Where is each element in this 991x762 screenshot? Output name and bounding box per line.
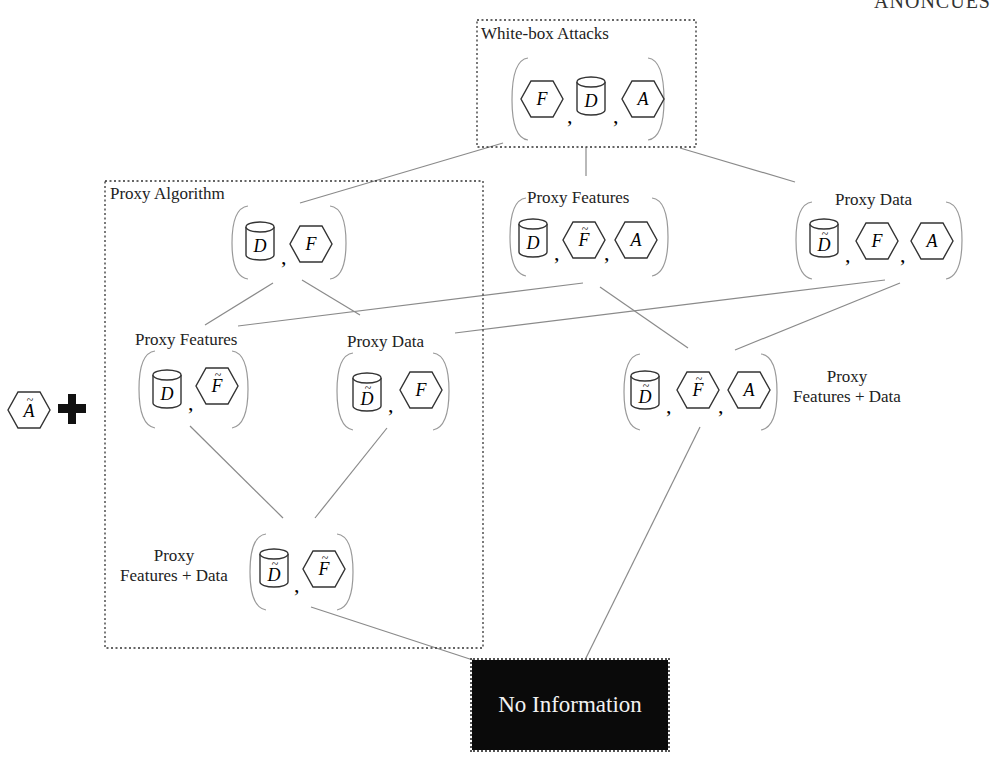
svg-text:~: ~ bbox=[215, 368, 222, 382]
cylinder-icon: D bbox=[246, 222, 274, 260]
node-pa-root: D , F bbox=[232, 206, 346, 279]
svg-text:A: A bbox=[926, 231, 939, 251]
node-proxy-features-data: D~ , F~ , A bbox=[624, 354, 777, 430]
svg-text:F: F bbox=[305, 234, 318, 254]
edge-pa-root-to-pa-data bbox=[302, 280, 360, 315]
cylinder-tilde-icon: D~ bbox=[631, 371, 659, 409]
svg-text:D: D bbox=[584, 91, 598, 111]
svg-text:F: F bbox=[536, 89, 549, 109]
svg-text:,: , bbox=[900, 242, 906, 267]
hexagon-icon: F bbox=[400, 372, 442, 408]
node-pa-proxy-features: D , F~ bbox=[139, 351, 248, 428]
hexagon-tilde-icon: A~ bbox=[8, 392, 50, 428]
node-pa-proxy-features-data: D~ , F~ bbox=[250, 534, 353, 610]
svg-text:,: , bbox=[188, 390, 194, 415]
pa-proxy-features-label: Proxy Features bbox=[135, 330, 237, 350]
legend-prefix: A~ bbox=[8, 392, 86, 428]
node-whitebox: F , D , A bbox=[512, 58, 664, 140]
cylinder-icon: D bbox=[153, 370, 181, 408]
node-proxy-features: D , F~ , A bbox=[510, 198, 668, 276]
hexagon-icon: A bbox=[911, 223, 953, 259]
svg-text:D: D bbox=[160, 384, 174, 404]
svg-text:~: ~ bbox=[365, 381, 372, 395]
cylinder-tilde-icon: D~ bbox=[260, 549, 288, 587]
svg-text:~: ~ bbox=[696, 372, 703, 386]
plus-icon bbox=[58, 394, 86, 424]
cylinder-tilde-icon: D~ bbox=[353, 373, 381, 411]
svg-text:~: ~ bbox=[272, 557, 279, 571]
edge-whitebox-to-proxy-data bbox=[680, 148, 795, 182]
hexagon-icon: A bbox=[622, 81, 664, 117]
cylinder-icon: D bbox=[519, 219, 547, 257]
svg-text:,: , bbox=[294, 572, 300, 597]
svg-text:A: A bbox=[637, 89, 650, 109]
hexagon-icon: F bbox=[290, 226, 332, 262]
edge-whitebox-to-pa-root bbox=[300, 143, 503, 203]
edge-data-to-pa-data bbox=[455, 280, 885, 333]
svg-text:F: F bbox=[871, 231, 884, 251]
edge-pa-features-to-pa-featdata bbox=[190, 426, 283, 518]
cylinder-tilde-icon: D~ bbox=[810, 219, 838, 257]
cylinder-icon: D bbox=[577, 77, 605, 115]
svg-text:~: ~ bbox=[643, 379, 650, 393]
comma: , bbox=[567, 103, 573, 128]
svg-text:,: , bbox=[845, 242, 851, 267]
whitebox-group-title: White-box Attacks bbox=[481, 24, 609, 44]
svg-text:~: ~ bbox=[822, 227, 829, 241]
svg-text:A: A bbox=[743, 380, 756, 400]
hexagon-tilde-icon: F~ bbox=[563, 222, 605, 258]
hexagon-icon: A bbox=[728, 372, 770, 408]
edge-data-to-feat-data bbox=[735, 283, 900, 350]
hexagon-icon: F bbox=[856, 223, 898, 259]
svg-text:D: D bbox=[253, 236, 267, 256]
pa-proxy-data-label: Proxy Data bbox=[347, 332, 424, 352]
svg-text:,: , bbox=[666, 393, 672, 418]
hexagon-tilde-icon: F~ bbox=[303, 551, 345, 587]
comma: , bbox=[613, 103, 619, 128]
svg-text:~: ~ bbox=[27, 393, 34, 407]
hexagon-icon: A bbox=[615, 222, 657, 258]
svg-text:F: F bbox=[415, 380, 428, 400]
svg-text:,: , bbox=[281, 244, 287, 269]
svg-text:,: , bbox=[718, 393, 724, 418]
proxy-algorithm-group-title: Proxy Algorithm bbox=[110, 184, 225, 204]
node-proxy-data: D~ , F , A bbox=[796, 202, 962, 279]
edge-features-to-feat-data bbox=[600, 287, 688, 348]
hexagon-tilde-icon: F~ bbox=[196, 368, 238, 404]
svg-text:,: , bbox=[388, 392, 394, 417]
edge-featdata-to-noinfo bbox=[585, 427, 700, 660]
node-pa-proxy-data: D~ , F bbox=[337, 353, 449, 430]
svg-text:,: , bbox=[554, 240, 560, 265]
svg-text:,: , bbox=[604, 240, 610, 265]
svg-text:~: ~ bbox=[322, 551, 329, 565]
hexagon-icon: F bbox=[521, 81, 563, 117]
proxy-data-label: Proxy Data bbox=[835, 190, 912, 210]
proxy-features-label: Proxy Features bbox=[527, 188, 629, 208]
edge-pa-featdata-to-noinfo bbox=[311, 607, 482, 663]
proxy-features-data-label: Proxy Features + Data bbox=[782, 367, 912, 406]
no-information-box: No Information bbox=[472, 660, 668, 750]
edge-pa-root-to-pa-features bbox=[205, 283, 273, 325]
svg-text:A: A bbox=[630, 230, 643, 250]
hexagon-tilde-icon: F~ bbox=[677, 372, 719, 408]
pa-proxy-features-data-label: Proxy Features + Data bbox=[108, 546, 240, 585]
edge-pa-data-to-pa-featdata bbox=[315, 428, 387, 518]
edge-features-to-pa-features bbox=[238, 283, 583, 326]
svg-text:D: D bbox=[526, 233, 540, 253]
svg-text:~: ~ bbox=[582, 222, 589, 236]
